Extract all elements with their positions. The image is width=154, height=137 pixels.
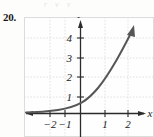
x-axis-label: x bbox=[147, 107, 153, 119]
y-axis-label: y bbox=[78, 17, 84, 18]
problem-number-label: 20. bbox=[3, 11, 16, 23]
exercise-figure-page: r v v 20. bbox=[0, 0, 154, 137]
y-tick-label-1: 1 bbox=[67, 91, 73, 103]
x-tick-label-2: 2 bbox=[125, 118, 131, 130]
x-tick-label-1: 1 bbox=[102, 118, 108, 130]
y-tick-label-2: 2 bbox=[67, 71, 73, 83]
page-bleed-artifact: r v v bbox=[44, 0, 114, 9]
coordinate-graph: −2 −1 1 2 1 2 3 4 x y bbox=[24, 17, 154, 137]
x-tick-label-neg2: −2 bbox=[44, 118, 57, 130]
y-tick-label-4: 4 bbox=[67, 32, 73, 44]
x-tick-label-neg1: −1 bbox=[59, 118, 72, 130]
y-tick-label-3: 3 bbox=[66, 52, 73, 64]
